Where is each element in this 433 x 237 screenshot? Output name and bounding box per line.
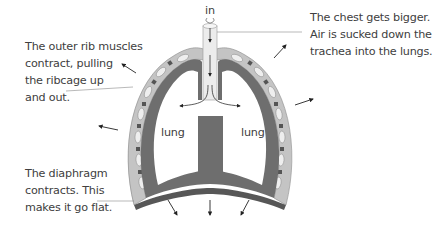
chest-annotation: The chest gets bigger. Air is sucked dow…	[310, 9, 432, 60]
annotation-line: Air is sucked down the	[310, 26, 432, 43]
lung-left-label: lung	[161, 124, 185, 141]
annotation-line: The diaphragm	[25, 165, 112, 182]
rib-muscles-annotation: The outer rib muscles contract, pulling …	[25, 38, 143, 106]
annotation-line: and out.	[25, 89, 143, 106]
diaphragm-annotation: The diaphragm contracts. This makes it g…	[25, 165, 112, 216]
annotation-line: contract, pulling	[25, 55, 143, 72]
annotation-line: The chest gets bigger.	[310, 9, 432, 26]
annotation-line: makes it go flat.	[25, 199, 112, 216]
lung-right-label: lung	[241, 124, 265, 141]
in-label: in	[205, 2, 215, 19]
annotation-line: The outer rib muscles	[25, 38, 143, 55]
annotation-line: contracts. This	[25, 182, 112, 199]
annotation-line: the ribcage up	[25, 72, 143, 89]
heart-region	[198, 116, 223, 174]
annotation-line: trachea into the lungs.	[310, 43, 432, 60]
